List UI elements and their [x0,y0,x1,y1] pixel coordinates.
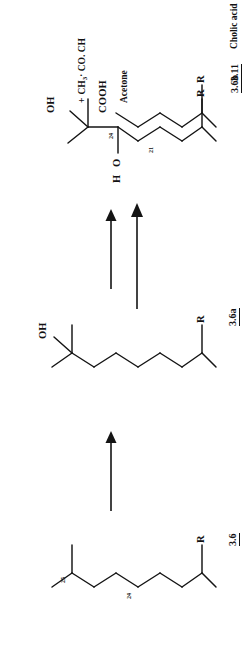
byproduct-formula-part-1: CH [77,80,87,94]
structure-id-3-6a-text: 3.6a [227,309,240,327]
byproduct-formula-subscript: 3 [81,77,89,81]
structure-3-6: R 24 25 3.6 [30,515,220,645]
arrow-3-6-to-3-6a-glyph [96,429,126,513]
byproduct-formula-part-2: · CO. CH [77,38,87,77]
atom-label-oh-3-6a: OH [38,322,49,339]
structure-3-6a-skeleton [30,295,220,425]
structure-3-6-skeleton [30,515,220,645]
byproduct-plus-sign: + [77,98,87,103]
atom-label-r-3-11: R [196,75,207,83]
structure-id-3-11-text: 3.11 [229,64,242,81]
carbon-number-24-3-6: 24 [126,593,132,599]
byproduct-name: Acetone [120,70,130,103]
byproduct-formula: +CH3· CO. CH [78,38,89,103]
structure-id-3-6a: 3.6a [228,309,238,327]
structure-id-3-6: 3.6 [228,534,238,547]
arrow-3-6b-to-3-11 [122,201,152,311]
scheme-canvas: R 24 25 3.6 [0,0,247,663]
arrow-3-6-to-3-6a [96,429,126,513]
structure-name-cholic-acid: Cholic acid [230,3,240,49]
atom-label-r-3-6a: R [196,315,207,323]
atom-label-r-3-6: R [196,535,207,543]
byproduct-acetone: +CH3· CO. CH Acetone [78,0,138,103]
carbon-number-25-3-6: 25 [60,577,66,583]
structure-id-3-11: 3.11 [230,64,240,81]
arrow-3-6b-to-3-11-glyph [122,201,152,311]
structure-id-3-6-text: 3.6 [227,534,240,547]
reaction-scheme: R 24 25 3.6 [0,0,247,663]
structure-3-6a: R OH 3.6a [30,295,220,425]
